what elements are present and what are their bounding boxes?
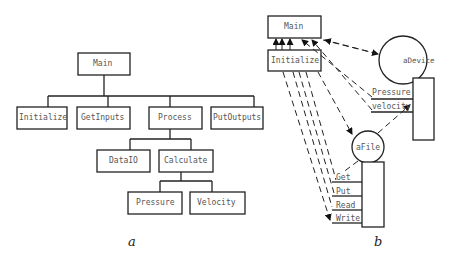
node-process: Process [158, 114, 192, 122]
module-initialize: Initialize [271, 57, 319, 65]
diagram-a-structure-chart [17, 53, 263, 214]
method-write: Write [336, 215, 360, 223]
body-adevice [413, 78, 434, 140]
node-getinputs: GetInputs [81, 114, 124, 122]
node-dataio: DataIO [109, 157, 138, 165]
node-initialize: Initialize [19, 114, 67, 122]
node-main: Main [93, 60, 112, 68]
node-putoutputs: PutOutputs [213, 114, 261, 122]
node-pressure: Pressure [136, 199, 175, 207]
method-read: Read [336, 202, 355, 210]
method-get: Get [336, 174, 350, 182]
module-main: Main [284, 23, 303, 31]
caption-a: a [128, 234, 136, 249]
method-pressure: Pressure [372, 89, 411, 97]
diagram-canvas [0, 0, 450, 261]
body-afile [362, 162, 384, 227]
object-afile: aFile [356, 144, 380, 152]
node-velocity: Velocity [197, 199, 236, 207]
method-put: Put [336, 188, 350, 196]
object-adevice: aDevice [403, 57, 435, 65]
method-velocity: velocity [372, 103, 411, 111]
node-calculate: Calculate [164, 157, 207, 165]
diagram-b-object-diagram [268, 16, 434, 227]
caption-b: b [374, 234, 382, 249]
